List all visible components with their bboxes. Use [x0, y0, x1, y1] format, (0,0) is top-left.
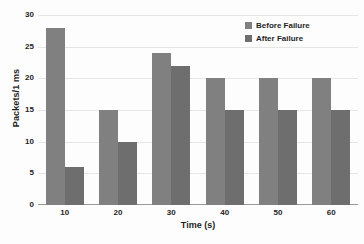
bar[interactable] — [152, 53, 171, 205]
bar-group — [145, 15, 198, 205]
bar[interactable] — [331, 110, 350, 205]
bar[interactable] — [206, 78, 225, 205]
bar[interactable] — [65, 167, 84, 205]
bar[interactable] — [46, 28, 65, 205]
y-tick-label: 0 — [18, 201, 34, 209]
x-tick-label: 60 — [305, 207, 358, 219]
x-tick-label: 40 — [198, 207, 251, 219]
x-tick-label: 30 — [145, 207, 198, 219]
y-tick-label: 5 — [18, 169, 34, 177]
legend-swatch-icon — [245, 35, 252, 42]
bar[interactable] — [259, 78, 278, 205]
legend-entry[interactable]: Before Failure — [245, 20, 355, 31]
legend-entry[interactable]: After Failure — [245, 33, 355, 44]
legend: Before FailureAfter Failure — [245, 20, 355, 46]
bar-group — [38, 15, 91, 205]
y-tick-label: 15 — [18, 106, 34, 114]
y-tick-label: 30 — [18, 11, 34, 19]
bar[interactable] — [312, 78, 331, 205]
bar[interactable] — [118, 142, 137, 205]
y-axis-tick-labels: 051015202530 — [14, 0, 34, 244]
x-axis-tick-labels: 102030405060 — [38, 207, 358, 219]
y-tick-label: 10 — [18, 138, 34, 146]
y-tick-label: 25 — [18, 43, 34, 51]
x-tick-label: 20 — [91, 207, 144, 219]
x-tick-label: 10 — [38, 207, 91, 219]
legend-label: Before Failure — [256, 21, 310, 30]
bar-group — [198, 15, 251, 205]
x-axis-title: Time (s) — [38, 220, 358, 230]
bar[interactable] — [225, 110, 244, 205]
legend-label: After Failure — [256, 34, 303, 43]
y-tick-label: 20 — [18, 74, 34, 82]
bar[interactable] — [171, 66, 190, 205]
bar[interactable] — [99, 110, 118, 205]
bar-chart-figure: Packets/1 ms 051015202530 102030405060 T… — [0, 0, 364, 244]
bar-group — [91, 15, 144, 205]
legend-swatch-icon — [245, 22, 252, 29]
bar[interactable] — [278, 110, 297, 205]
x-tick-label: 50 — [251, 207, 304, 219]
